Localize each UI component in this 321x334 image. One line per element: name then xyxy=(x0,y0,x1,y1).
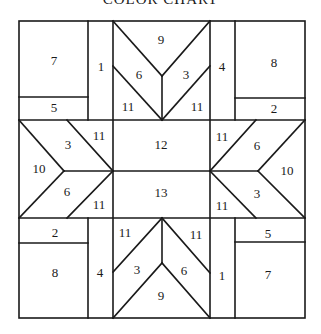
label-bottom-tip: 9 xyxy=(158,288,165,303)
label-bl-square: 8 xyxy=(52,265,59,280)
label-tl-square: 7 xyxy=(51,53,58,68)
label-top-right-corner: 11 xyxy=(191,99,204,114)
label-left-upper-arm: 3 xyxy=(65,137,72,152)
label-top-left-arm: 6 xyxy=(136,67,143,82)
label-bottom-left-corner: 11 xyxy=(119,225,132,240)
label-top-right-arm: 3 xyxy=(183,67,190,82)
label-tl-column: 1 xyxy=(98,59,105,74)
label-bottom-left-arm: 3 xyxy=(134,262,141,277)
label-top-tip: 9 xyxy=(158,32,165,47)
label-br-square: 7 xyxy=(265,267,272,282)
label-top-left-corner: 11 xyxy=(122,99,135,114)
label-bl-column: 4 xyxy=(97,265,104,280)
label-tr-column: 4 xyxy=(219,59,226,74)
label-br-strip: 5 xyxy=(265,226,272,241)
label-bottom-right-arm: 6 xyxy=(181,263,188,278)
label-right-lower-arm: 3 xyxy=(254,186,261,201)
label-left-upper-corner: 11 xyxy=(93,128,106,143)
label-tr-square: 8 xyxy=(271,55,278,70)
quilt-block-diagram: 7 5 1 9 6 3 11 11 4 8 2 10 3 6 11 11 12 … xyxy=(0,0,321,334)
label-right-upper-corner: 11 xyxy=(216,129,229,144)
label-right-lower-corner: 11 xyxy=(216,198,229,213)
label-right-upper-arm: 6 xyxy=(254,138,261,153)
label-br-column: 1 xyxy=(219,268,226,283)
label-left-lower-arm: 6 xyxy=(64,184,71,199)
label-left-lower-corner: 11 xyxy=(93,197,106,212)
label-bottom-right-corner: 11 xyxy=(190,227,203,242)
label-center-bottom: 13 xyxy=(155,185,168,200)
label-left-tip: 10 xyxy=(33,161,46,176)
label-right-tip: 10 xyxy=(281,163,294,178)
label-center-top: 12 xyxy=(155,137,168,152)
label-bl-strip: 2 xyxy=(52,225,59,240)
label-tr-strip: 2 xyxy=(271,101,278,116)
label-tl-strip: 5 xyxy=(51,100,58,115)
